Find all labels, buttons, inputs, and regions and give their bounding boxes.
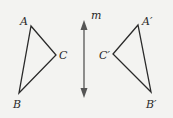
triangle-abc (19, 26, 56, 93)
arrow-up-icon (81, 20, 88, 30)
diagram-svg: m A C B A′ C′ B′ (0, 0, 173, 118)
arrow-down-icon (81, 88, 88, 98)
triangle-abc-prime (113, 25, 151, 92)
vertex-label-a: A (19, 15, 28, 28)
vertex-label-b: B (12, 98, 21, 111)
vertex-label-c-prime: C′ (99, 49, 110, 62)
line-label-m: m (91, 9, 101, 22)
vertex-label-a-prime: A′ (141, 15, 153, 28)
vertex-label-c: C (59, 49, 68, 62)
reflection-diagram: m A C B A′ C′ B′ (0, 0, 173, 118)
vertex-label-b-prime: B′ (145, 98, 157, 111)
